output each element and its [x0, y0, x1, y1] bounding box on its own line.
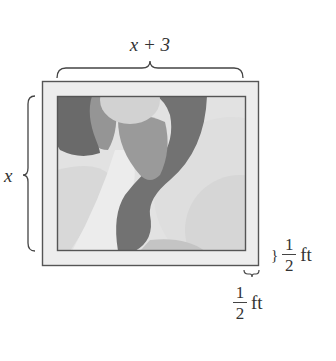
bottom-frame-width-brace — [244, 270, 259, 277]
fraction: 1 2 — [233, 284, 247, 322]
unit-label: ft — [251, 292, 263, 314]
top-dimension-label: x + 3 — [104, 34, 196, 56]
left-dimension-brace — [23, 96, 35, 251]
left-dimension-label: x — [4, 165, 12, 187]
fraction: 1 2 — [282, 236, 296, 274]
unit-label: ft — [300, 244, 312, 266]
fraction-numerator: 1 — [283, 236, 296, 253]
fraction-numerator: 1 — [234, 284, 247, 301]
right-frame-width-brace: } — [271, 247, 278, 264]
fraction-denominator: 2 — [285, 257, 294, 274]
fraction-denominator: 2 — [236, 305, 245, 322]
right-frame-width-label: } 1 2 ft — [271, 236, 312, 274]
bottom-frame-width-label: 1 2 ft — [233, 284, 263, 322]
fraction-bar — [282, 254, 296, 255]
top-dimension-brace — [57, 61, 243, 78]
fraction-bar — [233, 302, 247, 303]
